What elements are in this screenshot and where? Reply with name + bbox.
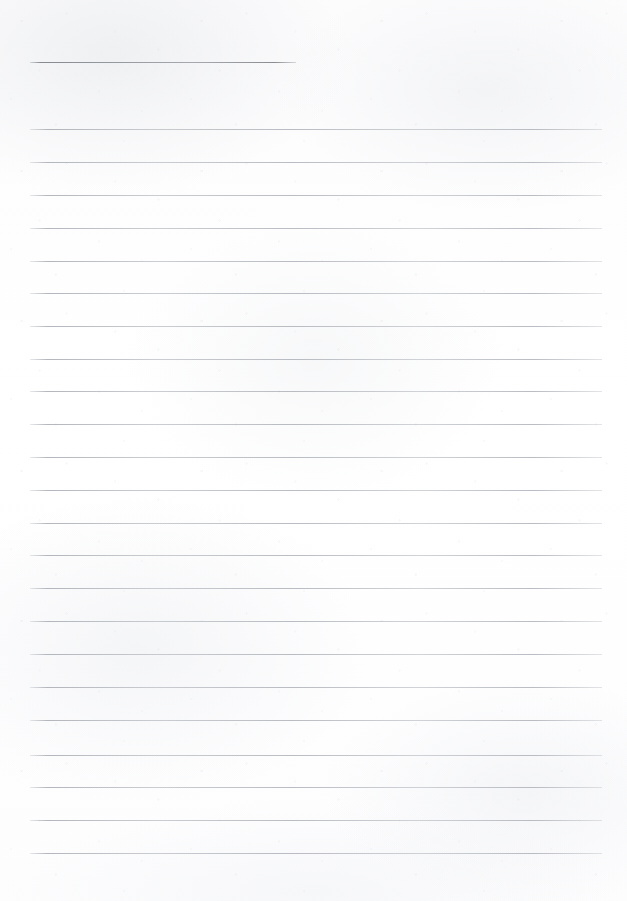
writing-line[interactable]	[30, 293, 602, 294]
writing-line[interactable]	[30, 820, 602, 821]
writing-line[interactable]	[30, 228, 602, 229]
writing-line[interactable]	[30, 359, 602, 360]
writing-line[interactable]	[30, 424, 602, 425]
writing-line[interactable]	[30, 853, 602, 854]
writing-line[interactable]	[30, 555, 602, 556]
writing-line[interactable]	[30, 523, 602, 524]
writing-line[interactable]	[30, 490, 602, 491]
writing-line[interactable]	[30, 720, 602, 721]
writing-line[interactable]	[30, 588, 602, 589]
scanned-page	[0, 0, 627, 901]
writing-line[interactable]	[30, 391, 602, 392]
writing-line[interactable]	[30, 787, 602, 788]
writing-line[interactable]	[30, 326, 602, 327]
writing-line[interactable]	[30, 755, 602, 756]
writing-line[interactable]	[30, 129, 602, 130]
title-rule	[30, 62, 296, 63]
writing-line[interactable]	[30, 687, 602, 688]
writing-line[interactable]	[30, 621, 602, 622]
writing-line[interactable]	[30, 654, 602, 655]
writing-line[interactable]	[30, 261, 602, 262]
writing-line[interactable]	[30, 195, 602, 196]
writing-line[interactable]	[30, 162, 602, 163]
paper-grain-texture	[0, 0, 627, 901]
writing-line[interactable]	[30, 457, 602, 458]
